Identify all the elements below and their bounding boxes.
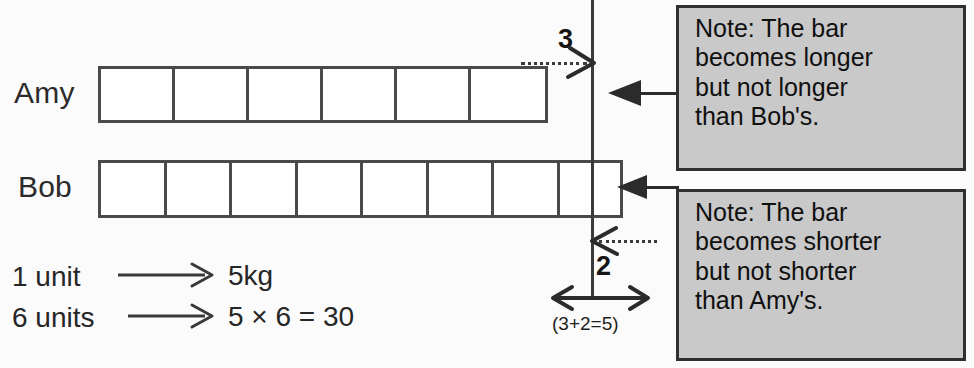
leader-dotted-lower [599,240,657,243]
span-caption: (3+2=5) [552,314,619,333]
statement-2-right: 5 × 6 = 30 [228,303,354,331]
note-box-bob: Note: The bar becomes shorter but not sh… [676,189,966,361]
row-label-bob: Bob [18,172,72,202]
note-box-amy: Note: The bar becomes longer but not lon… [676,5,966,171]
bar-cell [298,163,364,215]
bar-cell [363,163,429,215]
note-line: becomes longer [695,43,953,72]
connector-note-bob [643,186,679,189]
reference-vertical-line [591,0,594,300]
bar-cell [494,163,560,215]
note-line: but not longer [695,73,953,102]
row-label-amy: Amy [14,78,75,108]
bar-cell [249,69,323,120]
note-line: than Amy's. [695,286,953,315]
statement-2-left: 6 units [12,304,95,332]
statement-arrowhead-2 [192,305,212,327]
bar-amy [98,66,548,123]
note-line: becomes shorter [695,227,953,256]
bar-cell [397,69,471,120]
diagram-canvas: Amy Bob 3 2 (3+2=5) [0,0,974,368]
note-line: Note: The bar [695,198,953,227]
statement-arrowhead-1 [192,264,212,286]
bar-cell [175,69,249,120]
bar-cell [167,163,233,215]
bar-cell [101,69,175,120]
bar-cell [323,69,397,120]
note-line: Note: The bar [695,14,953,43]
note-line: but not shorter [695,257,953,286]
statement-1-left: 1 unit [12,263,81,291]
bar-cell [429,163,495,215]
span-arrowhead-left [553,287,572,309]
span-arrowhead-right [630,287,648,309]
marker-lower-value: 2 [596,253,611,280]
bar-cell [232,163,298,215]
note-line: than Bob's. [695,102,953,131]
marker-upper-value: 3 [558,26,573,53]
bar-cell [101,163,167,215]
leader-dotted-upper [521,62,587,65]
bar-cell [471,69,545,120]
connector-note-amy [637,92,679,95]
statement-1-right: 5kg [228,262,273,290]
bar-bob [98,160,623,218]
